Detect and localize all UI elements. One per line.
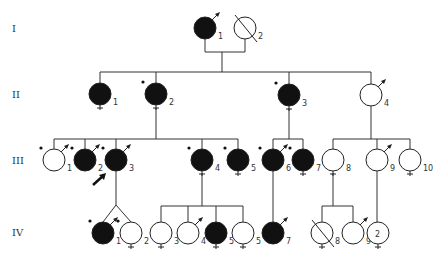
individual-number: 5 <box>251 164 256 173</box>
examined-dot-icon <box>187 146 190 149</box>
individual-number: 4 <box>215 164 220 173</box>
individual-number: 1 <box>113 98 118 107</box>
examined-dot-icon <box>223 146 226 149</box>
affected-female-symbol <box>92 222 114 244</box>
individual-number: 6 <box>286 164 291 173</box>
unaffected-female-symbol <box>342 222 364 244</box>
individual-number: 3 <box>129 164 134 173</box>
unaffected-female-symbol <box>150 222 172 244</box>
proband-arrow-icon <box>93 173 106 185</box>
pedigree-lines <box>54 39 410 222</box>
individual-II-4: 4 <box>360 79 389 108</box>
examined-dot-icon <box>288 146 291 149</box>
affected-female-symbol <box>262 222 284 244</box>
count-inside-symbol: 2 <box>375 230 380 239</box>
examined-dot-icon <box>39 146 42 149</box>
individual-II-3: 3 <box>274 81 307 111</box>
individual-III-2: 2 <box>70 144 103 173</box>
individual-number: 2 <box>169 98 174 107</box>
individual-number: 8 <box>346 164 351 173</box>
individual-IV-1: 1 <box>88 217 121 246</box>
individual-IV-6: 5 <box>232 222 261 249</box>
individual-IV-5: 5 <box>205 222 234 249</box>
individual-III-7: 7 <box>288 146 321 176</box>
examined-dot-icon <box>141 80 144 83</box>
individual-number: 5 <box>256 237 261 246</box>
individual-number: 1 <box>218 32 223 41</box>
affected-female-symbol <box>145 83 167 105</box>
individual-number: 10 <box>423 164 433 173</box>
individual-III-9: 9 <box>366 144 395 173</box>
affected-female-symbol <box>191 149 213 171</box>
individual-IV-8: 8 <box>311 220 340 249</box>
unaffected-female-symbol <box>120 222 142 244</box>
unaffected-female-symbol <box>232 222 254 244</box>
examined-dot-icon <box>274 81 277 84</box>
individual-number: 8 <box>335 237 340 246</box>
unaffected-female-symbol <box>177 222 199 244</box>
examined-dot-icon <box>258 146 261 149</box>
affected-female-symbol <box>227 149 249 171</box>
examined-dot-icon <box>101 146 104 149</box>
individual-III-6: 6 <box>258 144 291 173</box>
individual-number: 2 <box>144 237 149 246</box>
affected-female-symbol <box>205 222 227 244</box>
individual-number: 3 <box>302 99 307 108</box>
individual-number: 4 <box>201 237 206 246</box>
individual-III-1: 1 <box>39 144 72 173</box>
individual-number: 9 <box>390 164 395 173</box>
examined-dot-icon <box>70 146 73 149</box>
individual-II-2: 2 <box>141 80 174 110</box>
individual-number: 2 <box>98 164 103 173</box>
unaffected-female-symbol <box>322 149 344 171</box>
affected-female-symbol <box>292 149 314 171</box>
unaffected-female-symbol <box>360 84 382 106</box>
generation-labels: IIIIIIIV <box>12 23 24 238</box>
affected-female-symbol <box>262 149 284 171</box>
unaffected-female-symbol <box>43 149 65 171</box>
individual-IV-7: 7 <box>262 217 291 246</box>
individual-III-10: 10 <box>399 149 433 176</box>
unaffected-female-symbol <box>366 149 388 171</box>
affected-female-symbol <box>89 83 111 105</box>
examined-dot-icon <box>116 219 119 222</box>
unaffected-female-symbol <box>399 149 421 171</box>
individual-IV-3: 3 <box>150 222 179 249</box>
examined-dot-icon <box>88 219 91 222</box>
individual-number: 7 <box>316 164 321 173</box>
individual-III-5: 5 <box>223 146 256 176</box>
individual-III-4: 4 <box>187 146 220 176</box>
generation-label: IV <box>12 227 24 238</box>
affected-female-symbol <box>105 149 127 171</box>
generation-label: I <box>12 23 16 34</box>
individual-number: 1 <box>116 237 121 246</box>
individual-I-2: 2 <box>234 15 263 42</box>
generation-label: III <box>12 155 24 166</box>
affected-female-symbol <box>194 17 216 39</box>
individual-IV-2: 2 <box>116 219 149 249</box>
individual-IV-4: 4 <box>177 217 206 246</box>
pedigree-diagram: IIIIIIIV 121234123456789101234557892 <box>0 0 435 258</box>
individual-III-3: 3 <box>101 144 134 173</box>
generation-label: II <box>12 89 20 100</box>
individual-I-1: 1 <box>194 12 223 41</box>
individual-number: 1 <box>67 164 72 173</box>
individual-number: 7 <box>286 237 291 246</box>
individual-II-1: 1 <box>89 83 118 110</box>
individual-number: 4 <box>384 99 389 108</box>
individual-III-8: 8 <box>322 149 351 176</box>
individual-number: 2 <box>258 32 263 41</box>
individuals: 121234123456789101234557892 <box>39 12 433 249</box>
affected-female-symbol <box>278 84 300 106</box>
affected-female-symbol <box>74 149 96 171</box>
